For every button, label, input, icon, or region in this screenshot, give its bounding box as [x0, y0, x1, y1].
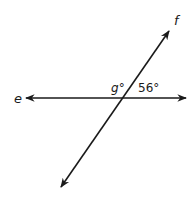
- angle-56-label: 56°: [138, 81, 159, 95]
- label-f: f: [174, 13, 181, 28]
- label-e: e: [14, 91, 22, 106]
- line-f: [61, 31, 169, 187]
- diagram-canvas: e f g° 56°: [0, 0, 195, 197]
- angle-g-label: g°: [111, 81, 125, 95]
